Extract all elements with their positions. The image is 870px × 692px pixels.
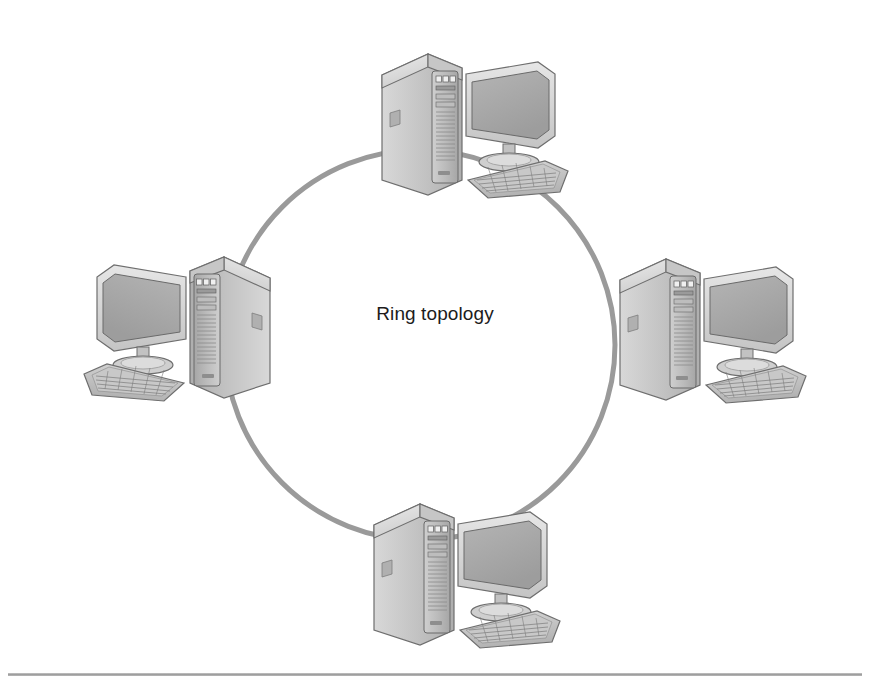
tower-top <box>382 54 462 195</box>
computer-left <box>82 243 282 408</box>
footer-divider <box>8 673 862 676</box>
monitor-top <box>466 62 555 171</box>
monitor-bottom <box>458 512 547 621</box>
tower-bottom <box>374 504 454 645</box>
monitor-right <box>704 267 793 376</box>
computer-right <box>608 245 808 410</box>
computer-top <box>370 40 570 205</box>
monitor-left <box>97 265 186 374</box>
tower-right <box>620 259 700 400</box>
ring-topology-figure: Ring topology <box>0 0 870 692</box>
tower-left <box>190 257 270 398</box>
computer-bottom <box>362 490 562 655</box>
